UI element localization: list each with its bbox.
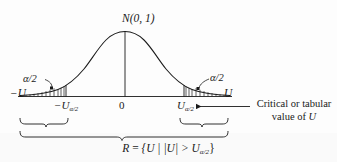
formula-subscript: α/2 — [200, 148, 209, 156]
right-tail-alpha-label: α/2 — [210, 73, 224, 84]
tick-label-positive-critical: Uα/2 — [177, 100, 194, 113]
tick-negative-critical-subscript: α/2 — [69, 105, 78, 112]
annotation-line-2-prefix: value of — [272, 111, 309, 122]
rejection-region-brace — [20, 131, 228, 141]
formula-equals: = — [129, 142, 141, 154]
right-tail-brace — [180, 118, 228, 127]
axis-left-end-label: −U — [10, 88, 26, 100]
critical-value-annotation: Critical or tabularvalue of U — [252, 97, 336, 123]
right-alpha-leader-line — [197, 79, 210, 90]
curve-label: N(0, 1) — [122, 13, 155, 25]
tick-positive-critical-subscript: α/2 — [185, 105, 194, 112]
annotation-line-1: Critical or tabular — [257, 98, 332, 109]
tick-label-origin: 0 — [119, 100, 125, 111]
rejection-region-formula: R = {U | |U| > Uα/2} — [0, 143, 337, 156]
tick-negative-critical-main: −U — [54, 99, 69, 111]
axis-right-end-label: U — [224, 88, 232, 100]
tick-positive-critical-main: U — [177, 99, 185, 111]
left-alpha-leader-line — [45, 80, 53, 90]
figure-graphics — [0, 0, 337, 162]
tick-label-negative-critical: −Uα/2 — [54, 100, 78, 113]
left-tail-brace — [20, 118, 68, 127]
formula-close: } — [209, 142, 215, 154]
formula-body: {U | |U| > U — [142, 142, 200, 154]
left-tail-alpha-label: α/2 — [23, 74, 37, 85]
annotation-line-2-symbol: U — [309, 111, 317, 122]
normal-distribution-figure: N(0, 1) −U U −Uα/2 0 Uα/2 α/2 α/2 Critic… — [0, 0, 337, 162]
